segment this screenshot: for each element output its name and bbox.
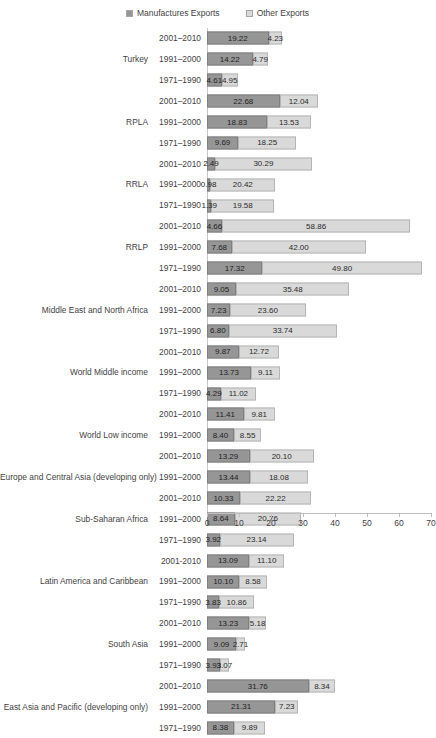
bar-segment-other[interactable]: 12.04 [280,95,319,108]
bar-segment-manufactures[interactable]: 18.83 [207,116,267,129]
bar-segment-other[interactable]: 9.89 [234,721,266,734]
bar-segment-other[interactable]: 11.10 [249,554,285,567]
bar-segment-manufactures[interactable]: 17.32 [207,262,262,275]
bar-segment-other[interactable]: 18.25 [238,136,296,149]
stacked-bar[interactable]: 3.9223.14 [207,533,294,546]
stacked-bar[interactable]: 3.8310.86 [207,596,254,609]
bar-segment-manufactures[interactable]: 7.23 [207,304,230,317]
stacked-bar[interactable]: 31.768.34 [207,680,335,693]
bar-segment-manufactures[interactable]: 6.80 [207,324,229,337]
stacked-bar[interactable]: 9.8712.72 [207,345,279,358]
bar-segment-other[interactable]: 13.53 [267,116,310,129]
bar-segment-manufactures[interactable]: 8.38 [207,721,234,734]
bar-segment-other[interactable]: 8.34 [309,680,336,693]
bar-segment-other[interactable]: 35.48 [236,283,350,296]
bar-segment-manufactures[interactable]: 4.61 [207,74,222,87]
bar-segment-other[interactable]: 4.23 [269,32,283,45]
stacked-bar[interactable]: 1.3919.58 [207,199,274,212]
stacked-bar[interactable]: 6.8033.74 [207,324,337,337]
bar-segment-other[interactable]: 33.74 [229,324,337,337]
bar-segment-other[interactable]: 19.58 [211,199,274,212]
bar-segment-other[interactable]: 2.71 [236,638,245,651]
stacked-bar[interactable]: 4.6658.86 [207,220,410,233]
stacked-bar[interactable]: 18.8313.53 [207,116,311,129]
stacked-bar[interactable]: 13.739.11 [207,366,280,379]
bar-segment-other[interactable]: 20.42 [210,178,275,191]
bar-segment-manufactures[interactable]: 13.29 [207,450,250,463]
category-period-label: 1991–2000 [150,431,201,439]
bar-segment-other[interactable]: 12.72 [239,345,280,358]
bar-segment-other[interactable]: 5.18 [249,617,266,630]
bar-segment-manufactures[interactable]: 10.33 [207,492,240,505]
stacked-bar[interactable]: 8.408.55 [207,429,261,442]
stacked-bar[interactable]: 13.4418.08 [207,471,308,484]
stacked-bar[interactable]: 2.4930.29 [207,157,312,170]
stacked-bar[interactable]: 9.092.71 [207,638,245,651]
bar-segment-other[interactable]: 30.29 [215,157,312,170]
bar-segment-other[interactable]: 7.23 [275,700,298,713]
bar-segment-manufactures[interactable]: 19.22 [207,32,269,45]
bar-segment-other[interactable]: 23.14 [220,533,294,546]
stacked-bar[interactable]: 13.2920.10 [207,450,314,463]
stacked-bar[interactable]: 11.419.81 [207,408,275,421]
bar-segment-other[interactable]: 11.02 [221,387,256,400]
bar-segment-manufactures[interactable]: 21.31 [207,700,275,713]
bar-segment-other[interactable]: 42.00 [232,241,366,254]
bar-segment-manufactures[interactable]: 9.05 [207,283,236,296]
bar-segment-manufactures[interactable]: 13.44 [207,471,250,484]
stacked-bar[interactable]: 4.2911.02 [207,387,256,400]
stacked-bar[interactable]: 13.0911.10 [207,554,284,567]
bar-segment-other[interactable]: 10.86 [219,596,254,609]
stacked-bar[interactable]: 21.317.23 [207,700,298,713]
bar-segment-manufactures[interactable]: 14.22 [207,53,253,66]
bar-segment-other[interactable]: 4.95 [222,74,238,87]
stacked-bar[interactable]: 14.224.79 [207,53,268,66]
bar-segment-manufactures[interactable]: 2.49 [207,157,215,170]
bar-segment-other[interactable]: 9.81 [244,408,275,421]
bar-segment-manufactures[interactable]: 13.73 [207,366,251,379]
stacked-bar[interactable]: 8.389.89 [207,721,265,734]
bar-segment-other[interactable]: 58.86 [222,220,410,233]
bar-segment-other[interactable]: 23.60 [230,304,306,317]
bar-segment-manufactures[interactable]: 3.92 [207,533,220,546]
legend-entry[interactable]: Manufactures Exports [126,8,220,18]
bar-segment-other[interactable]: 22.22 [240,492,311,505]
bar-segment-manufactures[interactable]: 10.10 [207,575,239,588]
stacked-bar[interactable]: 9.6918.25 [207,136,296,149]
bar-segment-manufactures[interactable]: 13.23 [207,617,249,630]
stacked-bar[interactable]: 10.108.58 [207,575,267,588]
bar-segment-manufactures[interactable]: 7.68 [207,241,232,254]
bar-segment-manufactures[interactable]: 3.83 [207,596,219,609]
bar-segment-other[interactable]: 4.79 [253,53,268,66]
stacked-bar[interactable]: 17.3249.80 [207,262,422,275]
bar-segment-manufactures[interactable]: 11.41 [207,408,244,421]
stacked-bar[interactable]: 7.2323.60 [207,304,306,317]
stacked-bar[interactable]: 13.235.18 [207,617,266,630]
bar-segment-other[interactable]: 18.08 [250,471,308,484]
stacked-bar[interactable]: 7.6842.00 [207,241,366,254]
stacked-bar[interactable]: 9.0535.48 [207,283,349,296]
bar-segment-other[interactable]: 9.11 [251,366,280,379]
bar-segment-manufactures[interactable]: 4.66 [207,220,222,233]
bar-segment-manufactures[interactable]: 8.40 [207,429,234,442]
bar-row: 1971–19903.8310.86 [0,592,435,613]
bar-segment-manufactures[interactable]: 9.69 [207,136,238,149]
bar-area: 21.317.23 [207,697,431,718]
bar-segment-manufactures[interactable]: 9.87 [207,345,239,358]
bar-segment-other[interactable]: 20.10 [250,450,314,463]
bar-segment-other[interactable]: 3.07 [220,659,230,672]
bar-segment-manufactures[interactable]: 4.29 [207,387,221,400]
bar-segment-other[interactable]: 8.58 [239,575,266,588]
stacked-bar[interactable]: 3.933.07 [207,659,229,672]
stacked-bar[interactable]: 22.6812.04 [207,95,318,108]
bar-segment-other[interactable]: 8.55 [234,429,261,442]
stacked-bar[interactable]: 19.224.23 [207,32,282,45]
bar-segment-manufactures[interactable]: 13.09 [207,554,249,567]
bar-segment-manufactures[interactable]: 22.68 [207,95,280,108]
legend-entry[interactable]: Other Exports [246,8,309,18]
bar-segment-manufactures[interactable]: 31.76 [207,680,309,693]
stacked-bar[interactable]: 4.614.95 [207,74,238,87]
bar-segment-other[interactable]: 49.80 [262,262,421,275]
stacked-bar[interactable]: 0.9820.42 [207,178,275,191]
stacked-bar[interactable]: 10.3322.22 [207,492,311,505]
